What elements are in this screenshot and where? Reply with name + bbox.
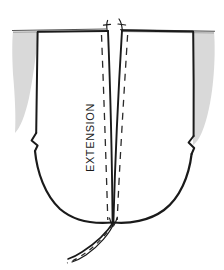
left-center-hook-tick (107, 21, 108, 32)
pattern-figure: EXTENSION (0, 0, 224, 270)
extension-label: EXTENSION (84, 103, 96, 172)
shading-group (12, 31, 214, 145)
left-panel-side-upper (36, 32, 37, 133)
left-panel-top-edge (38, 31, 108, 32)
left-panel-center-edge (108, 31, 113, 223)
left-panel-notch (32, 133, 38, 151)
shading-right-wedge (193, 31, 215, 145)
right-panel-group (113, 19, 194, 223)
right-panel-top-edge (122, 31, 193, 32)
extension-label-group: EXTENSION (84, 103, 96, 172)
stitch-line-right (117, 35, 127, 220)
pattern-diagram-svg: EXTENSION (0, 0, 224, 270)
tail-group (67, 218, 117, 263)
left-panel-group (32, 21, 113, 223)
right-center-hook-cross (118, 24, 126, 25)
right-panel-center-edge (113, 31, 122, 223)
tail-solid-outer (68, 222, 114, 259)
hem-curve-left (35, 151, 112, 223)
shading-left-wedge (12, 31, 38, 133)
stitch-line-left (102, 35, 108, 220)
left-center-hook-cross (104, 24, 111, 25)
hem-curve-right (114, 154, 192, 223)
